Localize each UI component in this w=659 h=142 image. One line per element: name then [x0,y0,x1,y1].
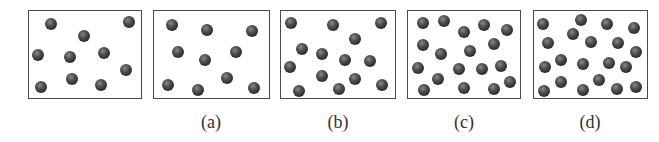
particle [585,36,597,48]
particle [432,73,444,85]
particle [230,46,242,58]
particle [478,19,490,31]
particle [458,82,470,94]
particle [567,28,579,40]
particle [364,55,376,67]
particle [593,74,605,86]
particle [476,63,488,75]
particle [98,47,110,59]
particle [64,51,76,63]
particle [123,16,135,28]
particle [296,43,308,55]
particle [501,24,513,36]
particle [611,83,623,95]
particle [120,64,132,76]
particle [542,37,554,49]
particle [488,83,500,95]
particle-diagram: (a)(b)(c)(d) [0,0,659,142]
particle [285,17,297,29]
particle [375,17,387,29]
particle [612,37,624,49]
particle [538,85,550,97]
particle [293,85,305,97]
particle [458,26,470,38]
particle [488,38,500,50]
particle [620,61,632,73]
particle [316,48,328,60]
particle [162,79,174,91]
particle [453,63,465,75]
particle [438,15,450,27]
particle [417,39,429,51]
particle [221,72,233,84]
panel-label-c: (c) [454,112,474,133]
particle [630,81,642,93]
panel-label-b: (b) [328,112,349,133]
particle [199,54,211,66]
particle [166,19,178,31]
particle [316,70,328,82]
particle [349,73,361,85]
particle [339,54,351,66]
particle [630,46,642,58]
particle [376,79,388,91]
particle [464,45,476,57]
particle [66,73,78,85]
particle [78,30,90,42]
particle [35,81,47,93]
particle [417,17,429,29]
particle [537,18,549,30]
particle [201,24,213,36]
particle [248,82,260,94]
particle [246,25,258,37]
particle [349,33,361,45]
particle [577,84,589,96]
particle [555,76,567,88]
particle [495,60,507,72]
particle [333,83,345,95]
particle [418,84,430,96]
particle [603,57,615,69]
particle [601,18,613,30]
particle [504,76,516,88]
panel-label-d: (d) [580,112,601,133]
particle [327,19,339,31]
particle [539,61,551,73]
particle [95,79,107,91]
particle [435,48,447,60]
particle [555,54,567,66]
particle [412,62,424,74]
particle [45,18,57,30]
particle [577,58,589,70]
particle [172,46,184,58]
panel-label-a: (a) [201,112,221,133]
particle [575,14,587,26]
particle [192,84,204,96]
particle [284,61,296,73]
particle [628,22,640,34]
particle [32,49,44,61]
